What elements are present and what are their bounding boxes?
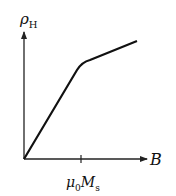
curve [24,41,137,159]
y-axis-label: ρH [20,10,38,30]
tick-label: μ0Ms [66,174,100,193]
x-axis-label: B [150,150,162,169]
